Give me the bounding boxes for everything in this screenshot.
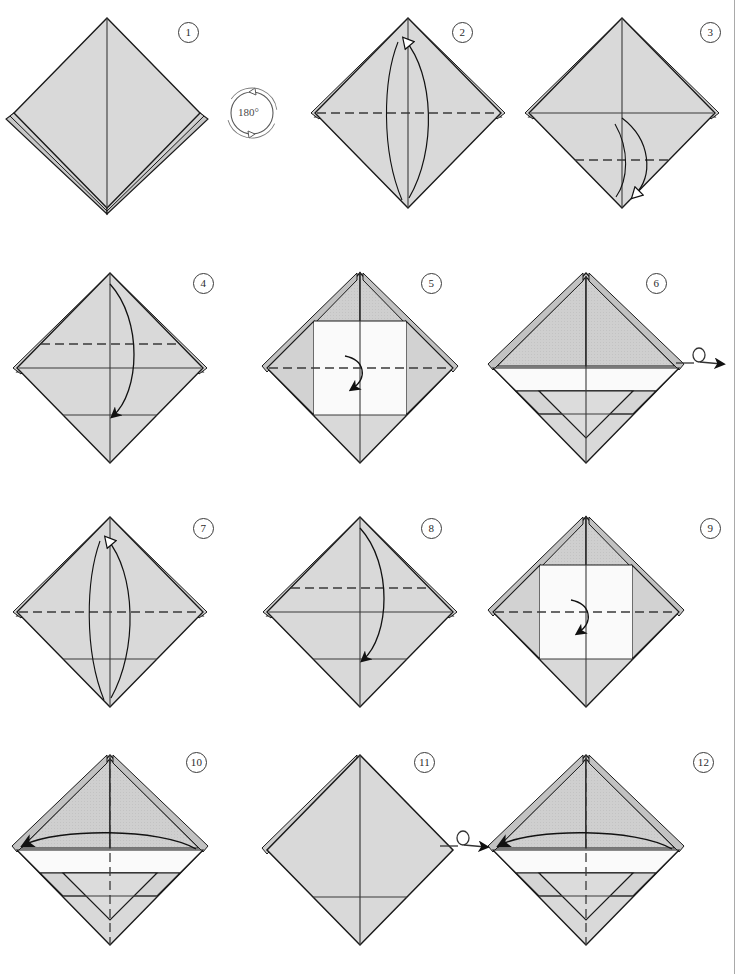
step-number-11[interactable]: 11 xyxy=(414,752,435,773)
page-margin-rule xyxy=(734,0,735,974)
step-figure-5 xyxy=(262,273,458,463)
step-figure-7 xyxy=(13,517,207,707)
step-figure-2 xyxy=(311,18,505,208)
step-number-9[interactable]: 9 xyxy=(700,518,721,539)
step-figure-11 xyxy=(262,755,453,945)
step-number-5[interactable]: 5 xyxy=(421,273,442,294)
step-figure-12 xyxy=(488,755,684,945)
step-number-10[interactable]: 10 xyxy=(186,752,207,773)
step-number-7[interactable]: 7 xyxy=(193,518,214,539)
rotate-180-label: 180° xyxy=(238,106,259,118)
step-figure-10 xyxy=(12,755,208,945)
turn-over-symbol-row2 xyxy=(676,348,722,364)
diagram-sheet: 180° 1 2 3 4 5 6 7 8 9 10 11 12 xyxy=(0,0,747,974)
step-number-6[interactable]: 6 xyxy=(646,273,667,294)
step-number-2[interactable]: 2 xyxy=(452,22,473,43)
step-number-4[interactable]: 4 xyxy=(193,273,214,294)
step-figure-6 xyxy=(488,273,684,463)
step-figure-9 xyxy=(488,517,684,707)
step-number-12[interactable]: 12 xyxy=(693,752,714,773)
step-figure-3 xyxy=(525,18,719,208)
origami-diagram-canvas xyxy=(0,0,747,974)
step-number-1[interactable]: 1 xyxy=(178,22,199,43)
step-figure-4 xyxy=(13,273,207,463)
step-figure-1 xyxy=(6,18,208,214)
step-number-8[interactable]: 8 xyxy=(421,518,442,539)
step-figure-8 xyxy=(263,517,457,707)
step-number-3[interactable]: 3 xyxy=(700,22,721,43)
